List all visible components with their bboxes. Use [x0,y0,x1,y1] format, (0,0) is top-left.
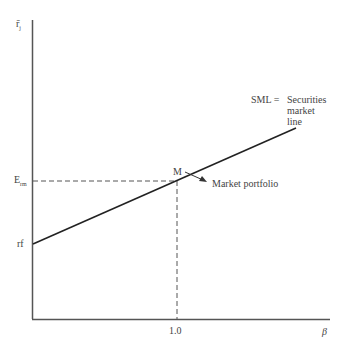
sml-abbr-label: SML = [251,94,279,105]
erm-label: Erm [14,174,27,190]
sml-definition: Securities market line [287,94,326,127]
market-portfolio-label: Market portfolio [212,178,278,189]
point-m-label: M [173,166,182,177]
beta-tick-label: 1.0 [169,325,182,336]
x-axis-label: β [322,326,327,337]
rf-label: rf [17,238,24,249]
y-axis-label: r̄j [16,18,21,34]
